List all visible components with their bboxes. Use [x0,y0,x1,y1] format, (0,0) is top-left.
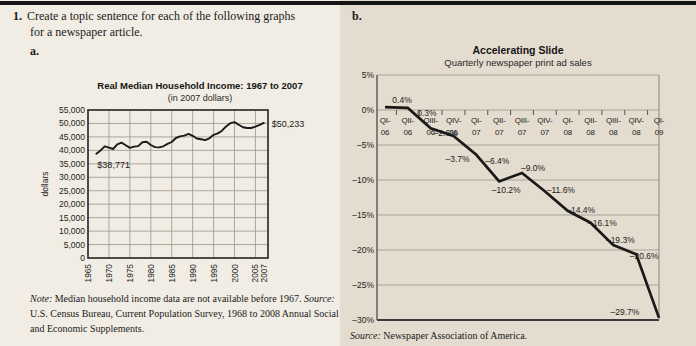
chart-a-plot: 55,00050,00045,00040,00035,00030,00025,0… [40,104,360,290]
data-label: –3.7% [445,154,470,164]
x-tick-label: 1985 [167,264,177,283]
question: 1.Create a topic sentence for each of th… [13,9,347,40]
x-category-label: QII-07 [493,116,506,137]
chart-b-figure: Accelerating Slide Quarterly newspaper p… [352,44,696,329]
data-label: 0.4% [392,95,412,105]
data-annotation: $38,771 [97,160,130,170]
question-text-line1: Create a topic sentence for each of the … [27,9,295,23]
y-tick-label: 5% [362,71,375,80]
data-line [385,107,659,318]
chart-b-plot: 5%0%–5%–10%–15%–20%–25%–30%QI-06QII-06QI… [352,71,696,329]
y-tick-label: 40,000 [59,145,85,155]
x-category-label: QI-08 [562,116,573,137]
x-category-label: QII-08 [584,116,597,137]
data-label: –11.6% [547,185,576,195]
x-tick-label: 1970 [104,264,114,283]
y-tick-label: –25% [352,280,374,290]
data-annotation: $50,233 [272,119,305,129]
x-category-label: QI-06 [380,116,391,137]
x-category-label: QIII-08 [606,116,621,137]
y-tick-label: 55,000 [59,105,85,115]
x-tick-label: 1965 [83,264,93,283]
source-b-label: Source: [350,330,381,341]
y-tick-label: 5,000 [64,240,86,250]
data-label: 0.3% [417,108,437,118]
question-number: 1. [13,9,27,23]
y-tick-label: –15% [352,210,374,220]
y-tick-label: –20% [352,245,374,255]
x-tick-label: 2007 [259,264,269,283]
x-category-label: QIV-07 [537,116,553,137]
x-category-label: QIII-07 [515,116,530,137]
data-label: –16.1% [588,218,617,228]
y-tick-label: 50,000 [59,118,85,128]
plot-border [88,110,268,258]
data-label: –19.3% [606,235,635,245]
y-tick-label: 10,000 [59,226,85,236]
y-tick-label: 25,000 [59,186,85,196]
x-tick-label: 1995 [209,264,219,283]
chart-a-title: Real Median Household Income: 1967 to 20… [40,80,360,91]
chart-b-source: Source: Newspaper Association of America… [350,330,690,341]
chart-a-figure: Real Median Household Income: 1967 to 20… [40,80,360,290]
data-line [96,122,263,154]
data-label: –2.6% [434,128,459,138]
data-label: –10.2% [492,185,521,195]
note-label: Note: [30,293,52,304]
question-text-line2: for a newspaper article. [13,25,143,39]
y-tick-label: 45,000 [59,132,85,142]
y-tick-label: 0 [80,253,85,263]
part-label-b: b. [352,9,362,24]
x-tick-label: 1990 [188,264,198,283]
x-category-label: QIV-08 [629,116,645,137]
data-label: –14.4% [566,205,595,215]
y-tick-label: 30,000 [59,172,85,182]
x-tick-label: 2000 [230,264,240,283]
chart-a-note-source: Note: Median household income data are n… [30,291,354,336]
x-tick-label: 1975 [125,264,135,283]
y-tick-label: 35,000 [59,159,85,169]
part-label-a: a. [30,44,39,59]
chart-b-subtitle: Quarterly newspaper print ad sales [352,57,684,68]
chart-b-title: Accelerating Slide [352,44,684,56]
data-label: –29.7% [611,307,640,317]
x-category-label: QI-07 [471,116,482,137]
source-a-text: U.S. Census Bureau, Current Population S… [30,308,339,334]
data-label: –20.6% [630,251,659,261]
chart-a-subtitle: (in 2007 dollars) [40,93,360,104]
y-tick-label: –30% [352,315,374,325]
y-tick-label: 0% [362,105,375,115]
x-tick-label: 1980 [146,264,156,283]
y-axis-title: dollars [40,171,50,196]
source-b-text: Newspaper Association of America. [383,330,527,341]
source-a-label: Source: [304,293,335,304]
data-label: –6.4% [485,156,510,166]
y-tick-label: –5% [357,140,374,150]
y-tick-label: 15,000 [59,213,85,223]
top-rule [0,1,696,5]
y-tick-label: 20,000 [59,199,85,209]
note-text: Median household income data are not ava… [55,293,302,304]
x-category-label: QII-06 [402,116,415,137]
y-tick-label: –10% [352,175,374,185]
data-label: –9.0% [521,163,546,173]
